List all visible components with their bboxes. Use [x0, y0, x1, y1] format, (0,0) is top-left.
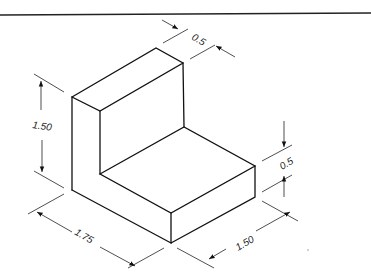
dim-label-depth: 1.50 [234, 233, 257, 252]
dim-depth: 1.50 [177, 201, 298, 268]
dim-length: 1.75 [28, 194, 164, 268]
speck [307, 249, 309, 251]
dim-label-length: 1.75 [73, 226, 96, 245]
l-block-shape [72, 48, 255, 243]
dim-base-thickness: 0.5 [262, 121, 295, 197]
dim-height: 1.50 [32, 74, 64, 188]
top-rule [0, 13, 371, 15]
dim-label-base-thickness: 0.5 [278, 155, 296, 172]
dim-label-height: 1.50 [32, 119, 53, 133]
dim-wall-thickness: 0.5 [162, 20, 235, 59]
isometric-drawing: 0.5 1.50 1.75 1.50 0.5 [0, 0, 371, 278]
dim-label-wall-thickness: 0.5 [190, 31, 208, 48]
